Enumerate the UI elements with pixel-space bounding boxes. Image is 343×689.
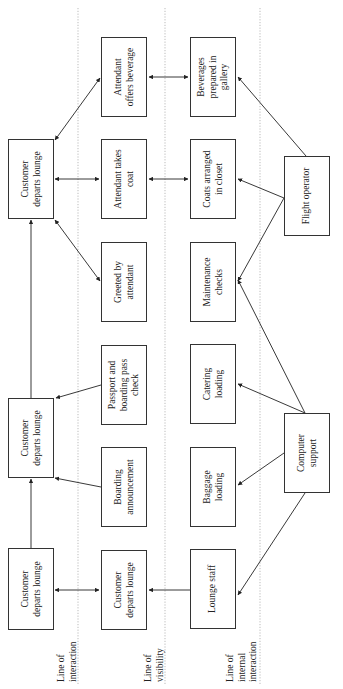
backstage-action-box: Baggage loading <box>190 447 236 527</box>
box-label: Beverages prepared in gallery <box>196 56 231 99</box>
line-of-internal-interaction-label: Line of internal interaction <box>225 641 260 682</box>
box-label: Attendant takes coat <box>113 149 136 208</box>
onstage-action-box: Customer departs lounge <box>101 550 147 630</box>
box-label: Customer departs lounge <box>20 151 43 207</box>
onstage-action-box: Boarding announcement <box>101 447 147 527</box>
support-process-box: Computer support <box>284 413 330 493</box>
onstage-action-box: Attendant offers beverage <box>101 37 147 117</box>
arrow-s1-b1 <box>238 493 305 595</box>
arrow-c3-o6 <box>55 78 100 140</box>
box-label: Coats arranged in closet <box>202 150 225 207</box>
box-label: Boarding announcement <box>113 459 136 514</box>
backstage-action-box: Coats arranged in closet <box>190 139 236 219</box>
backstage-action-box: Beverages prepared in gallery <box>190 37 236 117</box>
backstage-action-box: Lounge staff <box>190 549 236 629</box>
box-label: Computer support <box>296 434 319 472</box>
box-label: Catering loading <box>202 368 225 401</box>
arrow-s2-b5 <box>238 179 284 198</box>
customer-action-box: Customer departs lounge <box>8 548 54 630</box>
box-label: Maintenance checks <box>202 257 225 306</box>
arrow-s2-b6 <box>238 77 306 156</box>
arrow-c3-o4 <box>55 220 100 281</box>
customer-action-box: Customer departs lounge <box>8 398 54 478</box>
box-label: Attendant offers beverage <box>113 48 136 107</box>
box-label: Greeted by attendant <box>113 261 136 303</box>
box-label: Flight operator <box>301 168 313 225</box>
arrow-s1-b4 <box>238 280 305 413</box>
box-label: Passport and boarding pass check <box>107 359 142 412</box>
customer-action-box: Customer departs lounge <box>8 139 54 219</box>
line-of-interaction-label: Line of interaction <box>56 641 79 682</box>
backstage-action-box: Maintenance checks <box>190 242 236 322</box>
box-label: Customer departs lounge <box>20 561 43 617</box>
arrow-s2-b4 <box>238 198 284 281</box>
box-label: Customer departs lounge <box>20 410 43 466</box>
support-process-box: Flight operator <box>284 156 330 236</box>
box-label: Baggage loading <box>202 470 225 503</box>
box-label: Customer departs lounge <box>113 562 136 618</box>
onstage-action-box: Greeted by attendant <box>101 242 147 322</box>
backstage-action-box: Catering loading <box>190 344 236 424</box>
onstage-action-box: Passport and boarding pass check <box>101 345 147 425</box>
line-of-visibility-label: Line of visibility <box>143 648 166 682</box>
arrow-o3-c2 <box>56 385 101 398</box>
arrow-s1-b3 <box>238 384 305 413</box>
box-label: Lounge staff <box>207 565 219 613</box>
onstage-action-box: Attendant takes coat <box>101 139 147 219</box>
arrow-s1-b2 <box>238 453 284 485</box>
